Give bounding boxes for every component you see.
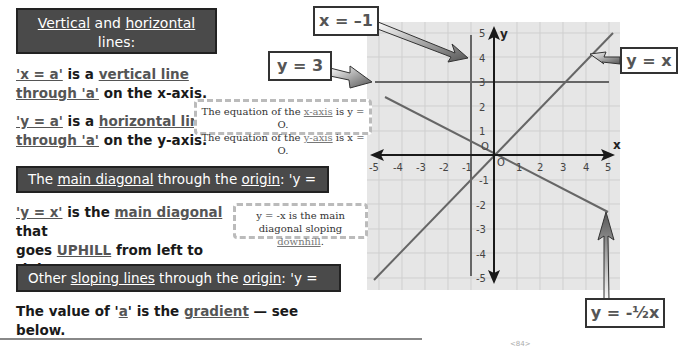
text: diagonal sloping <box>259 223 343 234</box>
note-line-1: The equation of the x-axis is y = O. <box>197 105 369 131</box>
svg-text:4: 4 <box>479 53 485 64</box>
svg-text:-1: -1 <box>479 175 489 186</box>
label-y-equals-x: y = x <box>620 47 678 74</box>
svg-text:-5: -5 <box>476 273 486 284</box>
x-axis-label: x <box>613 138 621 152</box>
coordinate-graph: -5 -4 -3 -2 -1 O 1 2 3 4 5 5 4 3 2 1 O -… <box>0 0 687 349</box>
text: The equation of the <box>202 106 304 117</box>
note-line-2: The equation of the y-axis is x = O. <box>197 131 369 157</box>
svg-text:-5: -5 <box>369 162 379 173</box>
svg-text:-3: -3 <box>476 224 486 235</box>
note-line-1: y = -x is the main <box>236 209 365 222</box>
svg-text:4: 4 <box>583 162 589 173</box>
svg-text:-2: -2 <box>476 200 486 211</box>
label-y-equals-minus-half-x: y = -½x <box>585 298 665 328</box>
svg-text:-4: -4 <box>393 162 403 173</box>
term-y-axis: y-axis <box>304 132 333 143</box>
svg-text:2: 2 <box>479 102 485 113</box>
svg-text:-1: -1 <box>462 162 472 173</box>
text: The equation of the <box>201 132 303 143</box>
note-line-2: diagonal sloping downhill. <box>236 222 365 248</box>
arrow-to-y-3-icon <box>330 66 372 88</box>
footer-page-mark: <84> <box>510 340 531 348</box>
svg-text:1: 1 <box>516 162 522 173</box>
note-axes-equations: The equation of the x-axis is y = O. The… <box>194 99 372 135</box>
svg-text:5: 5 <box>479 28 485 39</box>
label-y-equals-3: y = 3 <box>268 51 332 81</box>
svg-text:-2: -2 <box>439 162 449 173</box>
term-x-axis: x-axis <box>304 106 333 117</box>
svg-text:1: 1 <box>479 126 485 137</box>
svg-text:O: O <box>481 141 489 152</box>
svg-text:-4: -4 <box>476 249 486 260</box>
svg-text:2: 2 <box>537 162 543 173</box>
svg-text:3: 3 <box>560 162 566 173</box>
note-downhill-diagonal: y = -x is the main diagonal sloping down… <box>233 203 368 239</box>
text: . <box>321 236 324 247</box>
svg-text:5: 5 <box>605 162 611 173</box>
svg-text:-3: -3 <box>416 162 426 173</box>
y-axis-label: y <box>500 27 508 41</box>
svg-text:O: O <box>497 157 505 168</box>
term-downhill: downhill <box>277 236 320 247</box>
footer-divider <box>0 338 422 340</box>
label-x-equals-minus-1: x = –1 <box>313 6 379 36</box>
svg-text:3: 3 <box>479 77 485 88</box>
